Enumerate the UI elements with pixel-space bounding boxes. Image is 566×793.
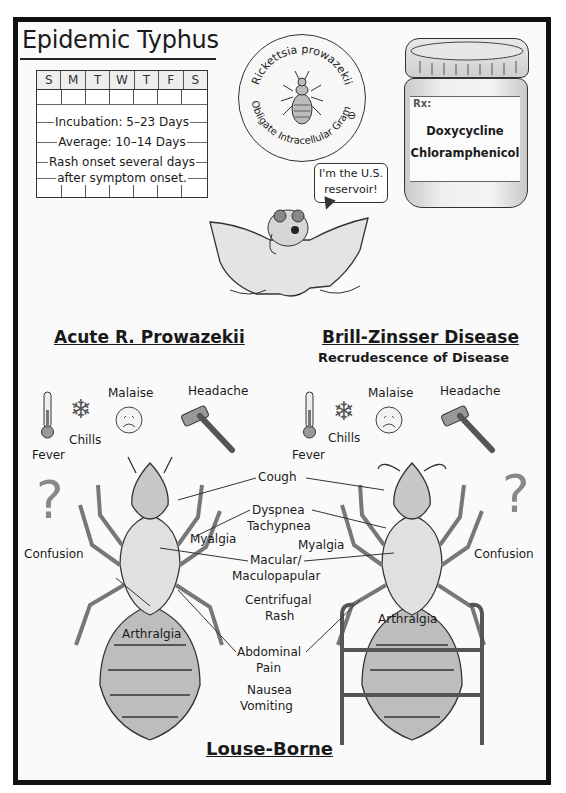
leader-lines (0, 0, 566, 793)
transmission-title: Louse-Borne (206, 738, 333, 759)
